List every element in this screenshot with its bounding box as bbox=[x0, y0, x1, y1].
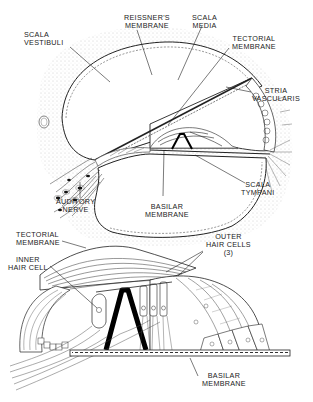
label-basilar-membrane-top: BASILAR MEMBRANE bbox=[145, 203, 189, 219]
cochlea-diagram: SCALA VESTIBULI REISSNER'S MEMBRANE SCAL… bbox=[0, 0, 313, 402]
label-stria-vascularis: STRIA VASCULARIS bbox=[252, 87, 300, 103]
cochlea-cross-section-drawing bbox=[0, 0, 313, 402]
label-scala-media: SCALA MEDIA bbox=[192, 14, 217, 30]
label-tectorial-membrane-top: TECTORIAL MEMBRANE bbox=[232, 35, 276, 51]
label-tectorial-membrane-bottom: TECTORIAL MEMBRANE bbox=[16, 231, 60, 247]
inner-hair-cell bbox=[92, 294, 106, 328]
label-auditory-nerve: AUDITORY NERVE bbox=[56, 198, 95, 214]
label-reissners-membrane: REISSNER'S MEMBRANE bbox=[124, 14, 170, 30]
label-scala-tympani: SCALA TYMPANI bbox=[241, 181, 275, 197]
label-inner-hair-cell: INNER HAIR CELL bbox=[8, 256, 48, 272]
label-outer-hair-cells: OUTER HAIR CELLS (3) bbox=[206, 233, 251, 258]
label-scala-vestibuli: SCALA VESTIBULI bbox=[24, 31, 63, 47]
outer-hair-cells bbox=[140, 282, 167, 316]
label-basilar-membrane-bottom: BASILAR MEMBRANE bbox=[202, 372, 246, 388]
